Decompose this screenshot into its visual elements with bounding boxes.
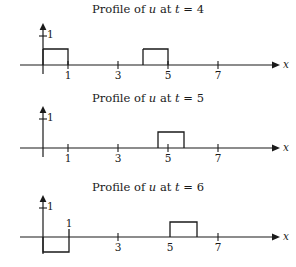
- x-tick-label-5-t4: 5: [161, 70, 175, 81]
- x-axis: [20, 62, 280, 69]
- x-tick-label-5-t5: 5: [161, 153, 175, 164]
- x-tick-label-3-t6: 3: [111, 242, 125, 253]
- x-axis: [20, 145, 280, 152]
- y-axis-value-label-t4: 1: [47, 29, 54, 40]
- pulse-0-t6: [43, 229, 69, 252]
- pulse-1-t4: [143, 49, 168, 65]
- x-axis-label-t4: x: [283, 59, 289, 70]
- x-tick-label-1-t4: 1: [61, 70, 75, 81]
- x-axis-label-t6: x: [283, 231, 289, 242]
- plot-area-t5: [0, 89, 296, 178]
- pulse-edge-label-1-t6: 1: [62, 218, 76, 229]
- x-axis-label-t5: x: [283, 142, 289, 153]
- pulse-1-t6: [170, 222, 197, 237]
- x-tick-label-7-t4: 7: [211, 70, 225, 81]
- x-axis: [20, 234, 280, 241]
- x-tick-label-7-t5: 7: [211, 153, 225, 164]
- x-tick-label-3-t4: 3: [111, 70, 125, 81]
- profile-panel-t4: Profile of u at t = 4: [0, 0, 296, 89]
- plot-area-t4: [0, 0, 296, 89]
- y-axis-value-label-t5: 1: [47, 112, 54, 123]
- pulse-0-t4: [43, 49, 68, 65]
- x-tick-label-5-t6: 5: [163, 242, 177, 253]
- x-tick-label-1-t5: 1: [61, 153, 75, 164]
- y-axis-value-label-t6: 1: [47, 201, 54, 212]
- profile-panel-t5: Profile of u at t = 5 1 1 3 5 7 x: [0, 89, 296, 178]
- x-tick-label-7-t6: 7: [211, 242, 225, 253]
- x-tick-label-3-t5: 3: [111, 153, 125, 164]
- profile-panel-t6: Profile of u at t = 6 1 1 3 5 7 x: [0, 178, 296, 267]
- y-axis: [40, 106, 47, 157]
- pulse-0-t5: [158, 132, 184, 148]
- plot-area-t6: [0, 178, 296, 267]
